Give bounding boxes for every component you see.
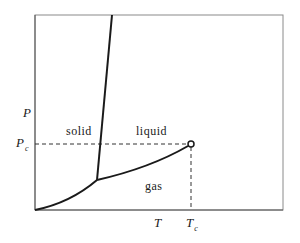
sublimation-curve bbox=[35, 180, 97, 210]
region-label-gas: gas bbox=[145, 180, 163, 192]
y-axis-label-text: P bbox=[23, 105, 31, 120]
critical-pressure-subscript: c bbox=[25, 144, 29, 153]
x-axis-label: T bbox=[154, 216, 161, 229]
region-label-solid: solid bbox=[66, 125, 92, 137]
y-axis-label: P bbox=[23, 106, 31, 119]
critical-temperature-symbol: T bbox=[186, 215, 193, 230]
melting-curve bbox=[97, 15, 112, 180]
phase-diagram: P Pc T Tc solid liquid gas bbox=[0, 0, 300, 243]
critical-temperature-label: Tc bbox=[186, 216, 198, 229]
x-axis-label-text: T bbox=[154, 215, 161, 230]
critical-pressure-symbol: P bbox=[16, 135, 24, 150]
critical-pressure-label: Pc bbox=[16, 136, 29, 149]
critical-temperature-subscript: c bbox=[194, 224, 198, 233]
region-label-liquid: liquid bbox=[136, 125, 167, 137]
vaporization-curve bbox=[97, 146, 188, 180]
critical-point-marker bbox=[188, 141, 194, 147]
